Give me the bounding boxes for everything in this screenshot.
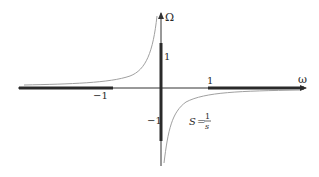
y-axis-label: Ω [165, 11, 174, 24]
curve-lower-right-branch [164, 90, 300, 163]
diagram-canvas: Ω ω 1 −1 1 −1 S = 1 s [0, 0, 319, 177]
tick-x-pos: 1 [207, 75, 213, 86]
curve-label-lhs: S [189, 116, 196, 127]
curve-label-num: 1 [205, 112, 210, 121]
tick-y-neg: −1 [147, 115, 162, 126]
tick-y-pos: 1 [164, 51, 170, 62]
curve-label-den: s [205, 122, 209, 131]
x-axis-label: ω [298, 73, 307, 86]
curve-upper-left-branch [24, 16, 157, 85]
tick-x-neg: −1 [93, 90, 108, 101]
curve-label: S = 1 s [189, 112, 211, 131]
